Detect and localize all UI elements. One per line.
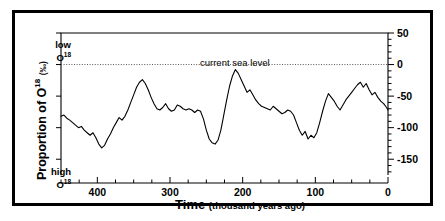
sea-level-chart: 4003002001000500-50-100-150: [15, 13, 436, 209]
y-axis-tick-label: 0: [397, 58, 403, 70]
y-axis-tick-label: 50: [397, 27, 409, 39]
x-axis-tick-label: 100: [307, 186, 325, 198]
plot-border: [61, 33, 388, 175]
y-axis-tick-label: -150: [397, 153, 418, 165]
x-axis-tick-label: 300: [161, 186, 179, 198]
sea-level-curve: [61, 70, 388, 148]
figure-frame: Proportion of O18 (‰) Changes in sea lev…: [12, 10, 433, 206]
figure-screenshot: Proportion of O18 (‰) Changes in sea lev…: [0, 0, 445, 221]
x-axis-tick-label: 200: [234, 186, 252, 198]
y-axis-tick-label: -100: [397, 121, 418, 133]
y-axis-tick-label: -50: [397, 90, 412, 102]
x-axis-tick-label: 0: [385, 186, 391, 198]
x-axis-tick-label: 400: [89, 186, 107, 198]
